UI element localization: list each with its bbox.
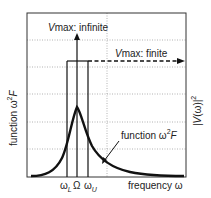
curve-label: function ω2F (121, 130, 177, 141)
vmax-finite-label: Vmax: finite (115, 48, 167, 59)
curve-label-prefix: function (121, 130, 159, 141)
vmax-var: V (115, 48, 122, 59)
grid-lines (27, 13, 186, 177)
f-var: F (171, 130, 177, 141)
vmax-infinite-text: max: infinite (55, 22, 108, 33)
f-var: F (8, 90, 19, 96)
subscript: L (68, 186, 72, 193)
power: 2 (6, 96, 13, 100)
arrowhead-right-icon (177, 58, 185, 64)
omega-symbol: ω (84, 180, 92, 191)
vmax-infinite-label: Vmax: infinite (48, 22, 108, 33)
capital-omega-symbol: Ω (73, 180, 80, 191)
y-axis-left-label: function ω2F (8, 90, 19, 146)
curve-annotation-line (104, 141, 119, 161)
tick-omega-lower: ωL (60, 180, 72, 191)
omega-symbol: ω (159, 130, 167, 141)
v-var: V (192, 117, 203, 124)
omega-arg: (ω) (192, 102, 203, 116)
label-prefix: function (8, 108, 19, 146)
frequency-response-diagram: Vmax: infinite Vmax: finite function ω2F… (0, 0, 211, 198)
omega-symbol: ω (8, 100, 19, 108)
abs-close: | (192, 100, 203, 103)
vmax-var: V (48, 22, 55, 33)
tick-omega-upper: ωU (84, 180, 97, 191)
arrowhead-up-icon (74, 33, 80, 40)
y-axis-right-label: |V(ω)|2 (192, 96, 203, 126)
tick-omega-center: Ω (73, 180, 80, 191)
x-axis-label: frequency ω (128, 180, 183, 191)
power: 2 (190, 96, 197, 100)
resonance-curve (31, 107, 184, 176)
abs-open: | (192, 123, 203, 126)
vmax-finite-text: max: finite (122, 48, 168, 59)
subscript: U (92, 186, 97, 193)
plot-frame (27, 13, 186, 177)
omega-symbol: ω (60, 180, 68, 191)
